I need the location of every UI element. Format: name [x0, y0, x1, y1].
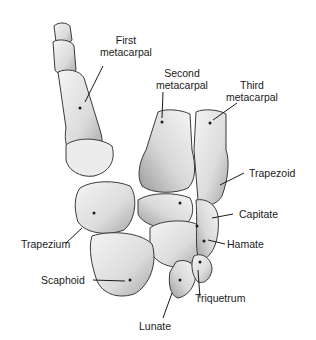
label-line: Triquetrum [195, 292, 245, 304]
second-metacarpal-bone [139, 110, 195, 192]
third-metacarpal-bone [194, 110, 228, 205]
label-line: First [100, 34, 152, 46]
label-line: metacarpal [100, 46, 152, 58]
label-first-metacarpal: First metacarpal [100, 34, 152, 58]
scaphoid-bone [90, 233, 154, 296]
label-line: Scaphoid [41, 274, 85, 286]
label-trapezoid: Trapezoid [249, 167, 295, 179]
label-line: Capitate [239, 208, 278, 220]
triquetrum-bone [192, 255, 212, 283]
label-line: Hamate [227, 238, 264, 250]
label-capitate: Capitate [239, 208, 278, 220]
label-line: Lunate [139, 320, 171, 332]
anatomy-diagram: First metacarpal Second metacarpal Third… [0, 0, 316, 340]
label-line: metacarpal [156, 79, 208, 91]
hamate-bone [196, 200, 218, 262]
label-line: Third [226, 79, 278, 91]
label-second-metacarpal: Second metacarpal [156, 67, 208, 91]
label-line: Trapezium [21, 238, 70, 250]
label-trapezium: Trapezium [21, 238, 70, 250]
label-line: Second [156, 67, 208, 79]
label-scaphoid: Scaphoid [41, 274, 85, 286]
label-line: Trapezoid [249, 167, 295, 179]
label-triquetrum: Triquetrum [195, 292, 245, 304]
label-line: metacarpal [226, 91, 278, 103]
label-third-metacarpal: Third metacarpal [226, 79, 278, 103]
label-hamate: Hamate [227, 238, 264, 250]
label-lunate: Lunate [139, 320, 171, 332]
trapezium-bone [75, 182, 135, 234]
